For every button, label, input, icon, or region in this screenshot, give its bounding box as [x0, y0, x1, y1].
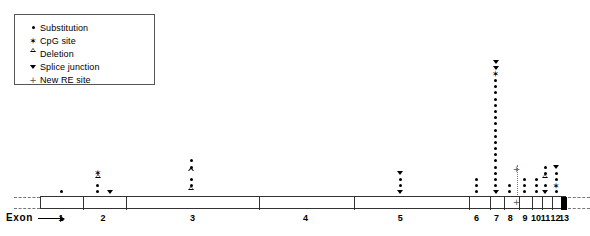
flank-dashes-left-bottom — [14, 208, 40, 209]
legend-item-label: CpG site — [40, 36, 76, 46]
splice-junction-icon — [493, 190, 499, 194]
substitution-dot-icon — [494, 159, 497, 162]
col-exon12: ✶ — [551, 164, 561, 195]
exon-caption-arrow-icon — [38, 218, 64, 219]
legend-symbol-cell — [26, 26, 40, 29]
legend-item-label: Splice junction — [40, 62, 100, 72]
substitution-dot-icon — [544, 184, 547, 187]
substitution-dot-icon — [494, 85, 497, 88]
col-exon5 — [395, 170, 405, 195]
splice-junction-icon — [553, 165, 559, 169]
marker-cell: ✶ — [491, 71, 501, 77]
legend-symbol-cell: ✶ — [26, 39, 40, 43]
substitution-dot-icon — [494, 91, 497, 94]
legend-item-splice-junction: Splice junction — [26, 61, 100, 74]
splice-junction-icon — [493, 60, 499, 64]
col-exon9 — [520, 176, 530, 195]
substitution-dot-icon — [535, 190, 538, 193]
exon-divider-2 — [126, 197, 127, 210]
cpg-star-icon: ✶ — [29, 39, 37, 43]
marker-cell — [491, 189, 501, 195]
substitution-dot-icon — [475, 190, 478, 193]
substitution-dot-icon — [494, 98, 497, 101]
splice-junction-icon — [542, 190, 548, 194]
deletion-triangle-icon — [188, 190, 194, 194]
exon-number-11: 11 — [541, 213, 551, 224]
exon-number-13: 13 — [559, 213, 569, 224]
substitution-dot-icon — [508, 184, 511, 187]
new-re-site-marker-bottom: + — [513, 191, 521, 209]
legend-symbol-cell — [26, 52, 40, 56]
new-re-site-marker-top: + — [513, 158, 521, 176]
exon-number-3: 3 — [190, 213, 195, 224]
substitution-dot-icon — [190, 178, 193, 181]
col-exon3 — [186, 158, 196, 195]
exon-divider-10 — [542, 197, 543, 210]
substitution-dot-icon — [555, 190, 558, 193]
splice-junction-icon — [493, 66, 499, 70]
exon-number-9: 9 — [522, 213, 527, 224]
substitution-dot-icon — [60, 190, 63, 193]
exon-divider-9 — [532, 197, 533, 210]
substitution-dot-icon — [494, 153, 497, 156]
legend-item-deletion: Deletion — [26, 47, 74, 60]
substitution-dot-icon — [535, 184, 538, 187]
exon-divider-7 — [504, 197, 505, 210]
marker-cell — [56, 189, 66, 195]
col-exon6 — [472, 176, 482, 195]
deletion-triangle-icon — [542, 178, 548, 182]
gene-mutation-figure: Substitution✶CpG siteDeletionSplice junc… — [0, 0, 590, 236]
exon-number-8: 8 — [508, 213, 513, 224]
substitution-dot-icon — [32, 26, 35, 29]
col-exon1 — [56, 189, 66, 195]
flank-dashes-right-bottom — [568, 208, 590, 209]
splice-junction-icon — [397, 171, 403, 175]
substitution-dot-icon — [475, 184, 478, 187]
substitution-dot-icon — [555, 172, 558, 175]
exon-divider-3 — [259, 197, 260, 210]
legend-item-label: New RE site — [40, 75, 91, 85]
exon-divider-6 — [490, 197, 491, 210]
substitution-dot-icon — [544, 166, 547, 169]
col-exon7: ✶ — [491, 59, 501, 195]
legend-item-label: Substitution — [40, 23, 88, 33]
substitution-dot-icon — [494, 122, 497, 125]
splice-junction-icon — [107, 190, 113, 194]
substitution-dot-icon — [494, 166, 497, 169]
substitution-dot-icon — [494, 79, 497, 82]
exon-number-7: 7 — [494, 213, 499, 224]
substitution-dot-icon — [494, 104, 497, 107]
substitution-dot-icon — [535, 178, 538, 181]
marker-cell — [186, 189, 196, 195]
substitution-dot-icon — [555, 178, 558, 181]
substitution-dot-icon — [523, 184, 526, 187]
substitution-dot-icon — [523, 190, 526, 193]
deletion-triangle-icon — [30, 52, 36, 56]
col-exon2-a: ✶ — [93, 170, 103, 195]
splice-junction-icon — [397, 190, 403, 194]
substitution-dot-icon — [475, 178, 478, 181]
substitution-dot-icon — [494, 141, 497, 144]
deletion-triangle-icon — [188, 171, 194, 175]
substitution-dot-icon — [523, 178, 526, 181]
exon-caption-label: Exon — [6, 212, 33, 223]
flank-dashes-right-top — [568, 197, 590, 198]
exon-divider-11 — [552, 197, 553, 210]
exon-number-4: 4 — [303, 213, 308, 224]
gene-bar — [40, 196, 566, 209]
substitution-dot-icon — [399, 184, 402, 187]
marker-cell — [520, 189, 530, 195]
new-re-site-icon: + — [513, 166, 521, 172]
new-re-site-icon: + — [513, 199, 521, 205]
legend-item-cpg-site: ✶CpG site — [26, 34, 76, 47]
legend-item-new-re-site: +New RE site — [26, 74, 91, 87]
exon-divider-5 — [469, 197, 470, 210]
splice-junction-icon — [30, 65, 36, 69]
substitution-dot-icon — [508, 190, 511, 193]
substitution-dot-icon — [494, 116, 497, 119]
substitution-dot-icon — [96, 184, 99, 187]
marker-cell — [93, 189, 103, 195]
substitution-dot-icon — [399, 178, 402, 181]
exon-number-2: 2 — [101, 213, 106, 224]
legend-symbol-cell — [26, 65, 40, 69]
